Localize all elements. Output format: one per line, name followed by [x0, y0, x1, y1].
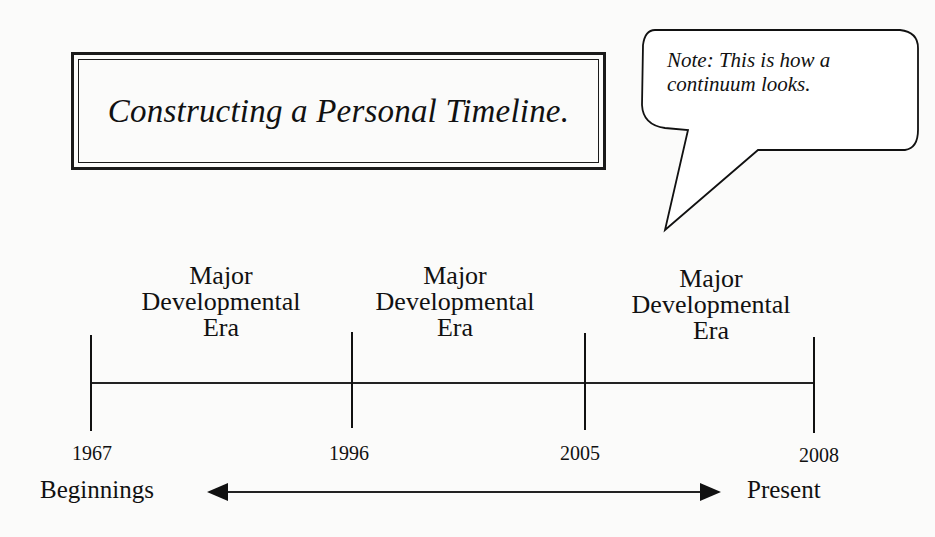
era-line: Developmental — [111, 289, 331, 315]
year-label-1967: 1967 — [52, 442, 132, 465]
era-line: Developmental — [345, 289, 565, 315]
era-line: Developmental — [601, 292, 821, 318]
year-label-1996: 1996 — [309, 442, 389, 465]
note-callout-text: Note: This is how a continuum looks. — [667, 48, 907, 96]
era-label-3: Major Developmental Era — [601, 266, 821, 344]
era-line: Major — [601, 266, 821, 292]
era-line: Era — [111, 315, 331, 341]
arrow-left-head-icon — [207, 483, 228, 501]
beginnings-label: Beginnings — [40, 476, 154, 504]
note-line-2: continuum looks. — [667, 72, 907, 96]
present-label: Present — [747, 476, 821, 504]
era-line: Major — [111, 263, 331, 289]
era-label-1: Major Developmental Era — [111, 263, 331, 341]
era-line: Era — [345, 315, 565, 341]
note-line-1: Note: This is how a — [667, 48, 907, 72]
era-label-2: Major Developmental Era — [345, 263, 565, 341]
era-line: Major — [345, 263, 565, 289]
era-line: Era — [601, 318, 821, 344]
year-label-2008: 2008 — [779, 444, 859, 467]
year-label-2005: 2005 — [540, 442, 620, 465]
arrow-right-head-icon — [700, 483, 721, 501]
